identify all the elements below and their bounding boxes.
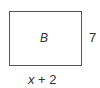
height-label: 7 (89, 30, 96, 45)
width-expression-rest: + 2 (35, 72, 57, 87)
rectangle-name-label: B (40, 31, 48, 45)
width-label: x + 2 (28, 72, 57, 87)
